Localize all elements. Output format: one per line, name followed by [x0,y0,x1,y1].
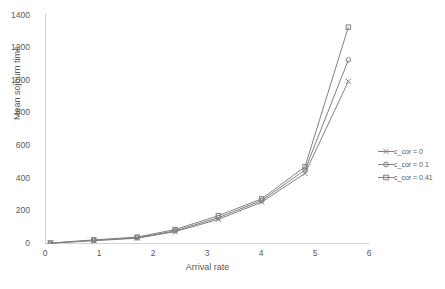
y-tick-label: 200 [0,205,30,215]
series-1 [48,58,351,244]
legend-item-0[interactable]: c_cor = 0 [378,145,444,158]
legend-label: c_cor = 0.41 [394,173,433,182]
x-tick-label: 2 [143,248,163,258]
series-line [50,81,348,243]
y-tick-label: 0 [0,238,30,248]
y-tick-label: 400 [0,173,30,183]
x-axis-title: Arrival rate [45,262,370,272]
x-tick-label: 0 [35,248,55,258]
x-tick-label: 1 [89,248,109,258]
x-tick-label: 6 [359,248,379,258]
x-tick-label: 3 [197,248,217,258]
legend: c_cor = 0 c_cor = 0.1 c_cor = 0.41 [378,145,444,184]
series-layer [48,25,351,244]
data-point [346,79,351,84]
x-tick-label: 5 [305,248,325,258]
plot-area [45,14,370,244]
chart-container: 1400 1200 1000 800 600 400 200 0 0 1 2 3… [0,0,445,289]
series-line [50,27,348,243]
legend-label: c_cor = 0.1 [394,160,429,169]
legend-line-marker-icon [378,159,394,170]
series-2 [48,25,350,244]
x-tick-label: 4 [251,248,271,258]
legend-line-marker-icon [378,146,394,157]
legend-item-1[interactable]: c_cor = 0.1 [378,158,444,171]
plot-svg [45,14,370,244]
data-point [346,58,351,63]
legend-item-2[interactable]: c_cor = 0.41 [378,171,444,184]
series-0 [48,79,351,244]
legend-label: c_cor = 0 [394,147,423,156]
legend-line-marker-icon [378,172,394,183]
y-axis-title: Mean sojourn time [12,18,22,148]
series-line [50,60,348,243]
